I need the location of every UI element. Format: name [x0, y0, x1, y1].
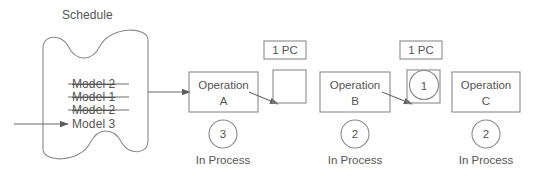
operation-b-status: In Process: [315, 155, 395, 167]
operation-c-label-line1: Operation: [452, 78, 520, 92]
schedule-entry-2: Model 2: [72, 104, 115, 116]
buffer-2-capacity-label: 1 PC: [400, 41, 442, 59]
operation-c-label-line2: C: [452, 94, 520, 108]
schedule-entry-3: Model 3: [72, 118, 115, 130]
operation-b-label-line1: Operation: [320, 78, 390, 92]
schedule-entry-0: Model 2: [72, 78, 115, 90]
schedule-title: Schedule: [62, 9, 113, 21]
operation-b-label-line2: B: [320, 94, 390, 108]
operation-a-label-line2: A: [189, 94, 258, 108]
operation-a-count: 3: [209, 129, 237, 141]
operation-c-status: In Process: [446, 155, 526, 167]
buffer-1-capacity-label: 1 PC: [264, 41, 306, 59]
schedule-entry-1: Model 1: [72, 91, 115, 103]
operation-a-label-line1: Operation: [189, 78, 258, 92]
buffer-1-slot: [273, 70, 306, 103]
diagram-canvas: Schedule Model 2 Model 1 Model 2 Model 3…: [0, 0, 536, 187]
buffer-2-contents: 1: [410, 81, 438, 93]
operation-a-status: In Process: [183, 155, 263, 167]
operation-b-count: 2: [341, 129, 369, 141]
operation-c-count: 2: [472, 129, 500, 141]
